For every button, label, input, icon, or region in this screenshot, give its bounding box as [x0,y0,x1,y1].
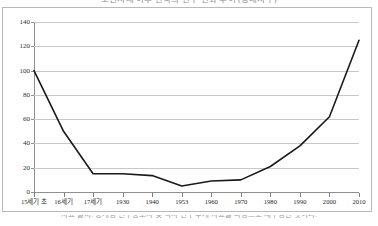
x-tick-label: 1940 [146,198,159,206]
y-tick-label: 80 [4,91,30,98]
figure-title: 조선시대 이후 한국의 인구 변화 추이 (상대지수) [0,0,378,5]
x-tick-label: 1970 [234,198,247,206]
data-line-svg [34,22,359,192]
x-tick-label: 1980 [264,198,277,206]
x-tick-mark [241,193,242,197]
x-tick-mark [34,193,35,197]
x-tick-mark [329,193,330,197]
y-tick-label: 40 [4,140,30,147]
figure-caption: 자료 출처: 통계청 인구총조사 및 역사 인구 추계 자료를 바탕으로 재구성… [0,215,378,220]
x-tick-label: 17세기 [84,198,103,206]
x-tick-mark [182,193,183,197]
x-tick-mark [300,193,301,197]
y-tick-label: 20 [4,164,30,171]
x-tick-label: 1960 [205,198,218,206]
x-tick-label: 1990 [293,198,306,206]
x-tick-label: 1930 [116,198,129,206]
y-tick-label: 140 [4,19,30,26]
x-tick-mark [93,193,94,197]
x-tick-label: 15세기 초 [21,198,47,206]
x-tick-label: 2010 [352,198,365,206]
chart-frame: 020406080100120140 15세기 초16세기17세기1930194… [2,7,372,212]
plot-area [34,22,359,192]
x-tick-mark [359,193,360,197]
y-tick-label: 120 [4,43,30,50]
x-tick-label: 2000 [323,198,336,206]
figure-title-strip: 조선시대 이후 한국의 인구 변화 추이 (상대지수) [0,0,378,7]
x-tick-mark [123,193,124,197]
x-tick-label: 1953 [175,198,188,206]
x-axis: 15세기 초16세기17세기19301940195319601970198019… [34,193,359,211]
line-chart: 020406080100120140 15세기 초16세기17세기1930194… [3,8,371,211]
x-tick-mark [211,193,212,197]
x-tick-mark [270,193,271,197]
x-tick-label: 16세기 [54,198,73,206]
y-tick-label: 60 [4,116,30,123]
x-tick-mark [152,193,153,197]
data-line [34,40,359,186]
y-tick-label: 100 [4,67,30,74]
y-tick-label: 0 [4,189,30,196]
x-tick-mark [64,193,65,197]
figure-caption-strip: 자료 출처: 통계청 인구총조사 및 역사 인구 추계 자료를 바탕으로 재구성… [0,215,378,226]
